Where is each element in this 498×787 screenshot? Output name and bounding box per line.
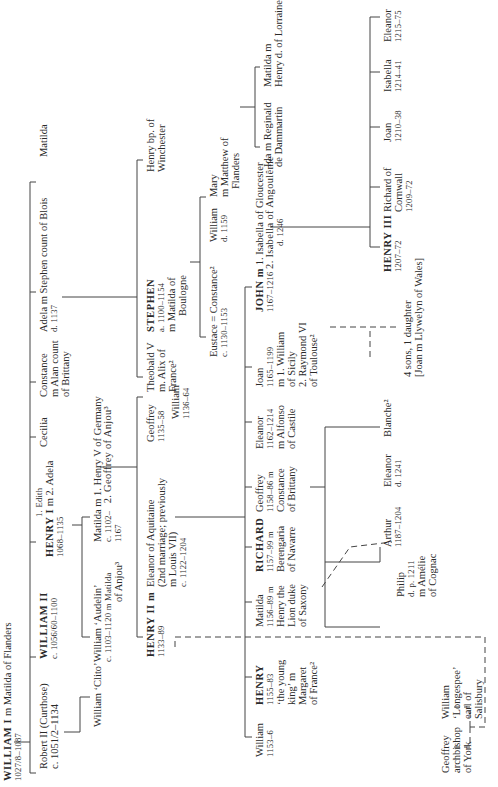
name: William [254,723,265,757]
joan-scotland-node: Joan 1210–38 [382,110,403,142]
spouse-2: of Sicily [286,322,297,387]
spouse: m Matilda of Flanders [2,622,13,716]
eleanor-john-daughter-node: Eleanor 1215–75 [382,9,403,42]
dates: c. 1103–1120 [103,613,113,662]
dates: 1158–86 m [265,466,275,512]
dates: 1187–1204 [393,506,403,547]
name: William [170,385,181,419]
dates: a. 1100–1154 [156,275,166,332]
philip-node: Philip d. p. 1211 m Amélie of Cognac [395,554,438,597]
dates: c. 1102– [103,511,113,542]
dates: 1209–72 [404,167,414,212]
william-henry-ii-son-node: William 1153–6 [254,723,275,757]
name: Eleanor of Aquitaine [145,478,156,587]
henry-bishop-node: Henry bp. of Winchester [145,119,167,172]
family-tree-diagram: WILLIAM I m Matilda of Flanders 1027/8–1… [0,0,498,787]
cecilia-node: Cecilia [38,417,49,447]
dates: c. 1051/2–1134 [49,683,60,769]
name: WILLIAM I [2,719,13,781]
spouse: m Matilda [103,572,113,610]
spouse-2: Boulogne [177,275,188,332]
matilda-node: Matilda [38,124,49,157]
spouse-1: 1. Edith [34,461,44,558]
note-2: m Louis VII) [167,478,178,587]
name: Eleanor [382,9,393,42]
name: Eleanor [382,454,393,487]
spouse: m Amélie [416,554,427,597]
name: Matilda m [92,499,103,542]
dates: 1215–75 [393,9,403,42]
name: Joan [382,110,393,142]
name: Geoffrey [145,404,156,442]
spouse: Berengaria [275,518,286,572]
william-ii-node: WILLIAM II c. 1056/60–1100 [38,592,59,659]
dates: c. 1122–1204 [178,478,188,587]
eleanor-castile-node: Eleanor 1162–1214 m Alfonso of Castile [254,405,297,449]
spouse-2: of Brittany [60,340,71,397]
william-clito-node: William ‘Clito’ [92,662,103,727]
dates: 1162–1214 [265,405,275,449]
name: Constance [38,340,49,397]
name: Adela m Stephen count of Blois [38,198,49,332]
name: William ‘Audelin’ [92,562,103,662]
spouse-2: 2. Isabella of Angoulême [264,156,275,269]
name: Richard of [382,167,393,212]
dates: 1165–1199 [265,322,275,387]
epithet: ‘Longespee’ [451,667,462,719]
arthur-node: Arthur 1187–1204 [382,506,403,547]
matilda-empress-node: Matilda m 1. Henry V of Germany c. 1102–… [92,396,123,542]
william-anjou-son-node: William 1136–64 [170,385,191,419]
spouse-2: Flanders [230,138,241,198]
spouse-2: of Castile [286,405,297,449]
richard-cornwall-node: Richard of Cornwall 1209–72 [382,167,414,212]
name: Robert II (Curthose) [38,683,49,769]
name: Mary [208,138,219,198]
william-audelin-node: William ‘Audelin’ c. 1103–1120 m Matilda… [92,562,124,662]
spouse-3: of Saxony [297,584,308,627]
dates: 1156–89 m [265,584,275,627]
geoffrey-brittany-node: Geoffrey 1158–86 m Constance of Brittany [254,466,297,512]
name: HENRY II m [145,592,156,657]
dates: 1207–72 [393,215,403,272]
name: Arthur [382,506,393,547]
dates: 1214–41 [393,59,403,92]
name: William [208,208,219,242]
dates: 1210–38 [393,110,403,142]
william-i-node: WILLIAM I m Matilda of Flanders 1027/8–1… [2,622,23,781]
title: archbishop [451,727,462,773]
spouse-2: of Brittany [286,466,297,512]
name: William ‘Clito’ [92,662,103,727]
spouse: Constance [275,466,286,512]
spouse-3: 2. Raymond VI [297,322,308,387]
name: Matilda [38,124,49,157]
tree-connector-lines [0,0,498,787]
spouse-2-dates: d. 1246 [275,156,285,312]
name: Cecilia [38,417,49,447]
spouse-4: of Toulouse² [308,322,319,387]
name: STEPHEN [145,275,156,332]
epithet: ‘the young [275,660,286,705]
matilda-lorraine-node: Matilda m Henry d. of Lorraine [262,0,284,87]
constance-node: Constance m Alan count of Brittany [38,340,71,397]
title-2: Salisbury [473,667,484,719]
spouse-2: of Cognac [427,554,438,597]
title-2: of York [462,727,473,773]
children-summary: 4 sons, 1 daughter [402,258,413,377]
spouse-2: m 2. Adela [44,461,55,507]
dates: 1068–1135 [55,461,65,558]
dates: 1133–89 [156,592,166,657]
spouse: Henry the [275,584,286,627]
spouse: m 1. William [275,322,286,387]
robert-ii-node: Robert II (Curthose) c. 1051/2–1134 [38,683,60,769]
henry-ii-node: HENRY II m 1133–89 [145,592,166,657]
dates: 1157–99 m [265,518,275,572]
blanche-node: Blanche² [382,399,393,437]
john-node: JOHN m 1. Isabella of Gloucester 1167–12… [254,156,285,312]
name: Isabella [382,59,393,92]
dates: 1153–6 [265,723,275,757]
richard-node: RICHARD 1157–99 m Berengaria of Navarre [254,518,297,572]
dates: c. 1130–1153 [219,266,229,357]
dates-2: 1167 [113,396,123,542]
mary-node: Mary m Matthew of Flanders [208,138,241,198]
name: HENRY III [382,215,393,272]
